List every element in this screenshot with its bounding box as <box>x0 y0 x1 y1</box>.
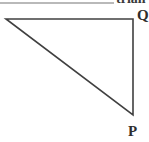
diagram-canvas: trian Q P <box>0 0 149 142</box>
vertex-label-q: Q <box>137 8 149 23</box>
vertex-label-p: P <box>128 124 137 139</box>
triangle-figure <box>0 0 149 142</box>
triangle-outline <box>6 19 133 115</box>
